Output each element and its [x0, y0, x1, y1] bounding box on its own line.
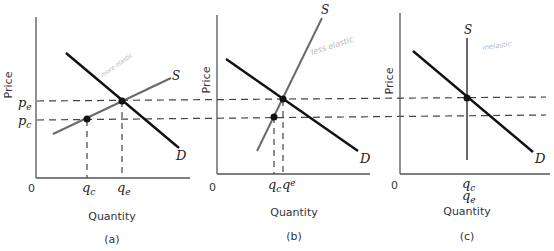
demand-label: D — [534, 151, 546, 166]
y-axis-label: Price — [200, 66, 213, 93]
equilibrium-point — [119, 98, 126, 105]
panel-caption: (a) — [104, 233, 119, 246]
x-axis-label: Quantity — [443, 205, 491, 218]
origin-label: 0 — [209, 181, 216, 194]
y-axis-label: Price — [383, 67, 396, 94]
panel-c: Price 0 qc qe Quantity (c) D S inelastic — [383, 13, 550, 243]
supply-label: S — [464, 23, 472, 37]
demand-label: D — [175, 148, 187, 163]
equilibrium-point — [464, 95, 471, 102]
panel-a: Price pe pc 0 qc qe Quantity (a) D S mor… — [2, 17, 190, 246]
pc-label: pc — [18, 113, 31, 130]
equilibrium-point — [280, 96, 287, 103]
supply-label: S — [321, 3, 329, 17]
qc-label: qc — [82, 180, 95, 197]
qc-label: qc — [268, 177, 281, 194]
pe-label: pe — [18, 95, 32, 112]
handwritten-annotation: less elastic — [310, 35, 355, 57]
handwritten-annotation: more elastic — [99, 51, 134, 78]
origin-label: 0 — [28, 182, 35, 195]
demand-curve — [226, 59, 358, 151]
x-axis-label: Quantity — [88, 210, 136, 223]
panel-caption: (c) — [460, 230, 475, 243]
supply-curve — [257, 18, 322, 151]
cap-point — [84, 116, 91, 123]
supply-demand-figure: Price pe pc 0 qc qe Quantity (a) D S mor… — [0, 0, 554, 251]
panel-b: Price 0 qc qe Quantity (b) D S less elas… — [200, 3, 371, 243]
panel-caption: (b) — [286, 230, 302, 243]
qe-label: qe — [117, 180, 131, 197]
x-axis-label: Quantity — [270, 206, 318, 219]
demand-label: D — [359, 151, 371, 166]
supply-label: S — [172, 69, 180, 83]
origin-label: 0 — [391, 179, 398, 192]
y-axis-label: Price — [2, 71, 15, 98]
cap-point — [271, 114, 278, 121]
demand-curve — [413, 51, 533, 152]
qe-label: qe — [282, 177, 296, 192]
handwritten-annotation: inelastic — [482, 40, 512, 52]
pc-dashed-line — [37, 115, 546, 120]
